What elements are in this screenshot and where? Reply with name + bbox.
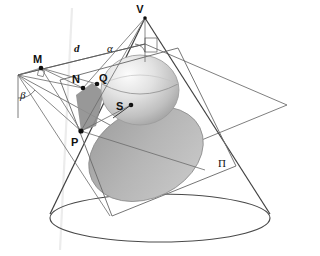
- marker-n: [81, 86, 86, 91]
- label-point-n: N: [72, 73, 80, 85]
- marker-v: [143, 16, 147, 20]
- label-vertex-v: V: [136, 3, 144, 15]
- marker-m: [39, 66, 44, 71]
- label-plane-pi: Π: [218, 157, 226, 169]
- label-angle-alpha: α: [107, 42, 113, 54]
- label-sphere-center-s: S: [116, 100, 123, 112]
- cone-base-ellipse: [50, 194, 270, 242]
- label-point-m: M: [33, 53, 42, 65]
- label-point-p: P: [71, 136, 78, 148]
- marker-p: [78, 128, 83, 133]
- shadow-wedge: [76, 83, 104, 131]
- geometry-figure: V M N Q P S Π d α β: [0, 0, 320, 256]
- right-angle-marker-m: [37, 69, 44, 76]
- diagram-canvas: V M N Q P S Π d α β: [0, 0, 320, 256]
- angle-alpha-arc: [135, 44, 145, 52]
- label-directrix-d: d: [74, 42, 80, 54]
- label-angle-beta: β: [19, 89, 26, 101]
- label-point-q: Q: [99, 72, 108, 84]
- background-guide-streak: [60, 8, 72, 250]
